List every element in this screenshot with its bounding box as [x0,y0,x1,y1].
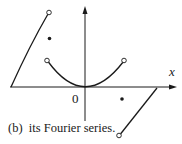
open-endpoint-parabola-right [122,58,127,63]
parabola-curve [48,62,124,87]
left-segment-curve [11,14,48,87]
origin-label: 0 [72,91,79,106]
x-axis-label: x [168,64,175,79]
open-endpoint-left-top [47,10,52,15]
jump-midpoint-dot-right [120,97,124,101]
fourier-series-diagram: x 0 (b) its Fourier series. [0,0,182,144]
x-axis-arrow-icon [169,85,177,90]
open-endpoint-parabola-left [45,58,50,63]
figure-caption: (b) its Fourier series. [8,121,115,135]
y-axis-arrow-icon [83,6,88,14]
right-segment-line [121,88,158,134]
open-endpoint-right-bottom [117,133,122,138]
jump-midpoint-dot-left [48,37,52,41]
